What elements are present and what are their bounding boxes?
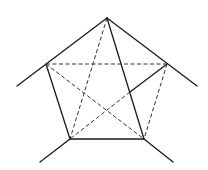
right-to-bottom-right-line	[144, 64, 167, 139]
top-to-bottom-left-line	[70, 18, 107, 139]
bottom-left-extension-line	[40, 139, 70, 162]
crossing-to-bottom-left-line	[70, 92, 130, 139]
pentagon-star-diagram	[0, 0, 208, 170]
left-to-bottom-right-line	[46, 64, 144, 139]
right-to-crossing-line	[130, 64, 167, 92]
top-to-bottom-right-line	[107, 18, 144, 139]
solid-lines	[17, 18, 197, 162]
bottom-right-extension-line	[144, 139, 173, 162]
left-to-bottom-left-line	[46, 64, 70, 139]
